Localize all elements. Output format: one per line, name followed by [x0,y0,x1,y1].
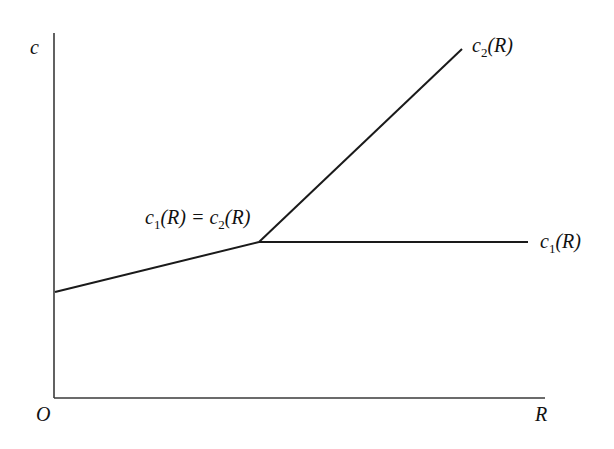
c2-label-arg: (R) [487,34,513,57]
origin-label: O [36,403,50,425]
c2-curve-label: c2(R) [472,34,513,60]
cost-curve-diagram: c O R c2(R) c1(R) c1(R) = c2(R) [0,0,614,449]
c2-label-main: c [472,34,481,56]
eq-end: (R) [225,206,251,229]
c1-curve-label: c1(R) [540,230,581,256]
eq-middle: (R) = [160,206,209,229]
c1-label-arg: (R) [555,230,581,253]
equality-annotation: c1(R) = c2(R) [145,206,251,232]
eq-c1-main: c [145,206,154,228]
c2-curve-line [259,49,462,242]
shared-segment-line [55,242,259,292]
eq-c2-main: c [209,206,218,228]
x-axis-label: R [534,403,547,425]
y-axis-label: c [30,36,39,58]
c1-label-main: c [540,230,549,252]
